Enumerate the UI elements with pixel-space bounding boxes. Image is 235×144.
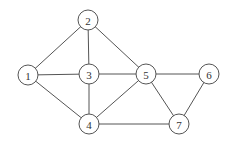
node-6: 6: [199, 64, 219, 84]
edge-2-5: [88, 20, 146, 74]
node-4: 4: [79, 114, 99, 134]
graph-diagram: 1234567: [0, 0, 235, 144]
node-label: 4: [86, 119, 92, 131]
node-label: 3: [86, 69, 92, 81]
edge-1-4: [28, 75, 89, 124]
node-1: 1: [18, 65, 38, 85]
nodes-layer: 1234567: [18, 10, 219, 134]
edges-layer: [28, 20, 209, 124]
node-5: 5: [136, 64, 156, 84]
edge-1-2: [28, 20, 88, 75]
node-label: 7: [176, 119, 182, 131]
node-label: 1: [25, 70, 31, 82]
node-label: 5: [143, 69, 149, 81]
node-2: 2: [78, 10, 98, 30]
node-label: 6: [206, 69, 212, 81]
node-7: 7: [169, 114, 189, 134]
edge-4-5: [89, 74, 146, 124]
node-3: 3: [79, 64, 99, 84]
node-label: 2: [85, 15, 91, 27]
